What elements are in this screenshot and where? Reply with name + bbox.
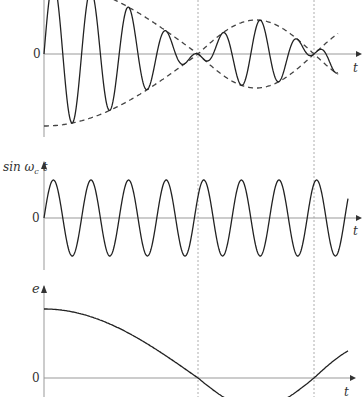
zero-label-1: 0	[33, 47, 41, 61]
zero-label-2: 0	[32, 211, 40, 225]
t-label-1: t	[353, 61, 358, 75]
zero-label-3: 0	[32, 371, 40, 385]
x-axis-arrow-icon	[356, 215, 362, 221]
x-axis-arrow-icon	[350, 375, 356, 381]
error-signal	[44, 309, 348, 397]
y-axis-arrow-icon	[41, 285, 47, 293]
t-label-2: t	[353, 224, 358, 238]
e-label: e	[32, 281, 40, 296]
x-axis-arrow-icon	[356, 51, 362, 57]
envelope-dashed	[44, 0, 338, 126]
figure-canvas: 0 t sin ωc t 0 t e 0 t	[0, 0, 362, 397]
panel-envelope-error	[41, 285, 356, 397]
y-label-2: sin ωc t	[3, 160, 48, 176]
modulated-signal	[44, 0, 338, 123]
t-label-3: t	[344, 385, 349, 397]
